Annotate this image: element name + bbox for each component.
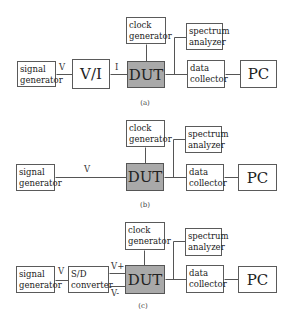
block-label-line2: collector bbox=[190, 74, 224, 85]
block-label-line1: signal bbox=[19, 269, 54, 280]
block-label-line2: generator bbox=[19, 280, 54, 291]
block-label: PC bbox=[247, 271, 269, 289]
panel-caption-b: (b) bbox=[140, 201, 150, 209]
block-dut-a: DUT bbox=[127, 61, 165, 88]
block-signal-generator-a: signalgenerator bbox=[17, 61, 56, 87]
signal-label: V bbox=[59, 62, 65, 72]
block-dut-b: DUT bbox=[126, 163, 164, 191]
block-label: DUT bbox=[128, 271, 163, 289]
signal-label: I bbox=[115, 62, 118, 72]
block-sd-converter-c: S/Dconverter bbox=[68, 266, 109, 293]
block-label-line1: data bbox=[190, 63, 224, 74]
block-clock-generator-b: clockgenerator bbox=[126, 120, 165, 147]
block-label-line1: clock bbox=[129, 123, 164, 134]
block-label-line2: generator bbox=[129, 31, 165, 42]
block-label-line2: analyzer bbox=[188, 242, 221, 253]
block-label-line2: converter bbox=[71, 280, 108, 291]
block-label-line2: generator bbox=[128, 236, 164, 247]
block-pc-c: PC bbox=[238, 266, 277, 293]
block-label: DUT bbox=[129, 66, 164, 84]
block-pc-b: PC bbox=[238, 164, 277, 191]
block-label-line2: generator bbox=[129, 134, 164, 145]
block-data-collector-a: datacollector bbox=[187, 60, 225, 88]
block-clock-generator-c: clockgenerator bbox=[125, 222, 165, 250]
block-spectrum-analyzer-c: spectrumanalyzer bbox=[185, 228, 222, 256]
block-label-line1: data bbox=[189, 268, 223, 279]
block-clock-generator-a: clockgenerator bbox=[126, 17, 166, 44]
block-label-line1: data bbox=[189, 167, 223, 178]
block-label: V/I bbox=[80, 65, 102, 83]
block-label: PC bbox=[248, 65, 270, 83]
block-data-collector-c: datacollector bbox=[186, 265, 224, 293]
block-label-line2: collector bbox=[189, 178, 223, 189]
block-label-line2: analyzer bbox=[188, 140, 221, 151]
block-label-line1: signal bbox=[20, 64, 55, 75]
block-label-line2: analyzer bbox=[189, 37, 222, 48]
block-label-line2: generator bbox=[20, 75, 55, 86]
block-label-line1: spectrum bbox=[188, 129, 221, 140]
signal-label: V- bbox=[111, 288, 119, 298]
signal-label: V bbox=[58, 266, 64, 276]
block-label: PC bbox=[247, 169, 269, 187]
panel-caption-c: (c) bbox=[138, 302, 147, 310]
block-spectrum-analyzer-b: spectrumanalyzer bbox=[185, 126, 222, 153]
block-label-line1: spectrum bbox=[189, 26, 222, 37]
block-vi-converter-a: V/I bbox=[72, 59, 110, 89]
panel-caption-a: (a) bbox=[140, 99, 150, 107]
block-pc-a: PC bbox=[240, 60, 277, 88]
signal-label: V+ bbox=[111, 261, 124, 271]
block-label: DUT bbox=[128, 168, 163, 186]
block-dut-c: DUT bbox=[125, 265, 165, 294]
block-label-line1: clock bbox=[129, 20, 165, 31]
block-label-line1: spectrum bbox=[188, 231, 221, 242]
block-label-line1: signal bbox=[19, 167, 54, 178]
block-label-line1: clock bbox=[128, 225, 164, 236]
block-signal-generator-b: signalgenerator bbox=[16, 164, 55, 191]
block-label-line2: generator bbox=[19, 178, 54, 189]
block-signal-generator-c: signalgenerator bbox=[16, 266, 55, 293]
block-label-line2: collector bbox=[189, 279, 223, 290]
signal-label: V bbox=[84, 164, 90, 174]
block-data-collector-b: datacollector bbox=[186, 164, 224, 191]
block-label-line1: S/D bbox=[71, 269, 108, 280]
block-spectrum-analyzer-a: spectrumanalyzer bbox=[186, 23, 223, 50]
